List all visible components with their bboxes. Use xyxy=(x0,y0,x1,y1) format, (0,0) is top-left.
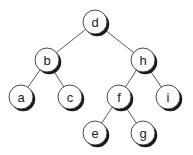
node-label: d xyxy=(91,15,98,30)
tree-node-f: f xyxy=(107,85,133,111)
binary-tree-diagram: dbhacfieg xyxy=(0,0,193,155)
node-label: e xyxy=(91,126,98,141)
node-label: f xyxy=(117,90,121,105)
tree-nodes: dbhacfieg xyxy=(9,10,182,147)
node-label: g xyxy=(139,126,146,141)
tree-edges xyxy=(21,22,168,133)
tree-node-a: a xyxy=(9,85,35,111)
tree-node-e: e xyxy=(83,121,109,147)
node-label: h xyxy=(139,53,146,68)
node-label: c xyxy=(67,90,74,105)
node-label: a xyxy=(17,90,25,105)
tree-node-h: h xyxy=(131,48,157,74)
node-label: b xyxy=(43,53,50,68)
tree-node-c: c xyxy=(58,85,84,111)
node-label: i xyxy=(167,90,170,105)
tree-node-d: d xyxy=(83,10,109,36)
tree-node-i: i xyxy=(156,85,182,111)
tree-node-g: g xyxy=(131,121,157,147)
